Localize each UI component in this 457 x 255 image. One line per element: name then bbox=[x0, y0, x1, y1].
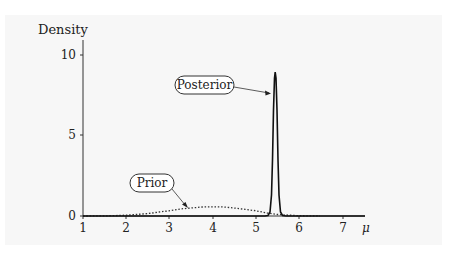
density-chart: Density 0 5 10 1 2 3 4 5 6 7 μ Posterior bbox=[0, 0, 457, 255]
x-ticks: 1 2 3 4 5 6 7 μ bbox=[79, 216, 370, 235]
y-axis-label: Density bbox=[38, 22, 89, 37]
x-tick-label: 6 bbox=[295, 221, 303, 235]
x-tick-label: 2 bbox=[122, 221, 130, 235]
x-tick-label: 5 bbox=[252, 221, 260, 235]
x-tick-label: 7 bbox=[339, 221, 347, 235]
y-ticks: 0 5 10 bbox=[61, 48, 83, 223]
x-axis-label: μ bbox=[362, 221, 370, 235]
prior-annotation: Prior bbox=[130, 174, 188, 208]
y-tick-label: 10 bbox=[61, 48, 76, 62]
prior-curve bbox=[83, 207, 320, 216]
posterior-annotation: Posterior bbox=[175, 76, 271, 96]
y-tick-label: 5 bbox=[68, 128, 76, 142]
x-tick-label: 1 bbox=[79, 221, 87, 235]
x-tick-label: 3 bbox=[165, 221, 173, 235]
posterior-label: Posterior bbox=[177, 78, 233, 92]
prior-label: Prior bbox=[137, 176, 168, 190]
x-tick-label: 4 bbox=[209, 221, 217, 235]
y-tick-label: 0 bbox=[68, 209, 76, 223]
